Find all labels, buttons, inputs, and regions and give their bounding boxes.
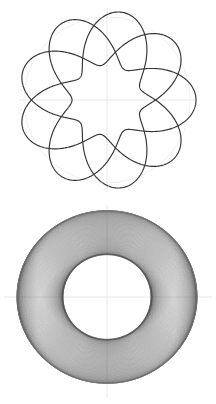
plot-page (0, 0, 216, 404)
panel-sparse-trefoil-projection (0, 0, 216, 202)
knot-strand (22, 12, 181, 166)
knot-strand (22, 34, 181, 188)
panel-dense-torus-winding (0, 202, 216, 404)
dense-torus-svg (0, 202, 216, 404)
sparse-trefoil-svg (0, 0, 216, 202)
